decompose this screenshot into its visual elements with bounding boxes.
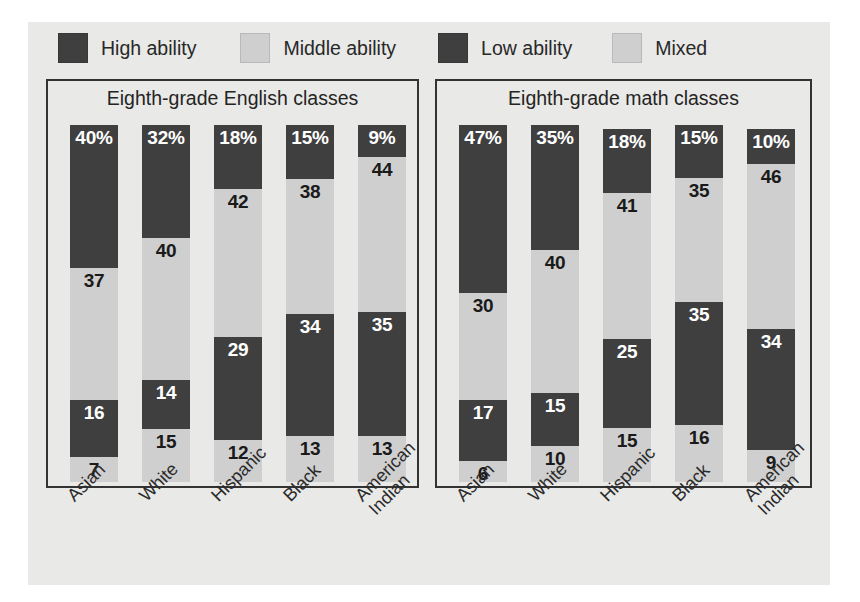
bar-segment: 14 (142, 380, 190, 429)
bar-group: 15%383413 (286, 125, 334, 482)
bar-segment-label: 15% (286, 128, 334, 147)
bar-segment: 35 (675, 302, 723, 426)
legend-item-low-ability: Low ability (438, 33, 572, 63)
bar-segment: 35% (531, 125, 579, 250)
bar-segment-label: 30 (459, 296, 507, 315)
legend-item-middle-ability: Middle ability (240, 33, 396, 63)
bar-segment: 16 (70, 400, 118, 457)
panel-math-classes: Eighth-grade math classes 47%3017635%401… (435, 79, 812, 488)
legend-label-low-ability: Low ability (481, 37, 572, 60)
bar-segment: 15 (531, 393, 579, 447)
legend-swatch-mixed-icon (612, 33, 642, 63)
bar-segment: 30 (459, 293, 507, 400)
legend-label-middle-ability: Middle ability (283, 37, 396, 60)
bar-segment-label: 35 (675, 181, 723, 200)
x-axis-labels: AsianWhiteHispanicBlackAmerican IndianAs… (28, 492, 830, 585)
bar-segment-label: 44 (358, 160, 406, 179)
legend-item-high-ability: High ability (58, 33, 196, 63)
bar-segment-label: 15% (675, 128, 723, 147)
bar-segment: 18% (603, 129, 651, 193)
bar-segment: 47% (459, 125, 507, 293)
panel-title-english: Eighth-grade English classes (48, 87, 417, 110)
bar-segment: 18% (214, 125, 262, 189)
bar-segment: 10% (747, 129, 795, 165)
bar-segment-label: 40 (531, 253, 579, 272)
bar-group: 18%412515 (603, 125, 651, 482)
legend-swatch-middle-icon (240, 33, 270, 63)
bar-segment: 40 (531, 250, 579, 393)
bar-segment: 35 (675, 178, 723, 302)
bar-segment-label: 47% (459, 128, 507, 147)
bar-segment: 40 (142, 238, 190, 379)
bar-segment-label: 40 (142, 241, 190, 260)
legend-swatch-high-icon (58, 33, 88, 63)
bar-segment-label: 25 (603, 342, 651, 361)
bar-segment: 9% (358, 125, 406, 157)
bar-segment-label: 16 (675, 428, 723, 447)
panel-english-classes: Eighth-grade English classes 40%3716732%… (46, 79, 419, 488)
bar-segment-label: 14 (142, 383, 190, 402)
bar-segment-label: 16 (70, 403, 118, 422)
bar-segment: 25 (603, 339, 651, 428)
bar-segment-label: 15 (531, 396, 579, 415)
bar-segment-label: 42 (214, 192, 262, 211)
bar-segment-label: 35 (675, 305, 723, 324)
plot-area-math: 47%3017635%40151018%41251515%35351610%46… (437, 125, 810, 482)
bar-segment: 17 (459, 400, 507, 461)
bar-segment-label: 35 (358, 315, 406, 334)
bar-group: 35%401510 (531, 125, 579, 482)
bar-group: 32%401415 (142, 125, 190, 482)
bar-segment-label: 34 (286, 317, 334, 336)
bar-segment-label: 18% (214, 128, 262, 147)
bar-segment-label: 41 (603, 196, 651, 215)
bar-segment: 35 (358, 312, 406, 436)
bar-segment-label: 38 (286, 182, 334, 201)
bar-segment: 15% (675, 125, 723, 178)
bar-segment-label: 37 (70, 271, 118, 290)
bar-segment: 37 (70, 268, 118, 400)
legend-swatch-low-icon (438, 33, 468, 63)
bar-segment-label: 34 (747, 332, 795, 351)
bar-segment: 38 (286, 179, 334, 315)
bar-segment-label: 32% (142, 128, 190, 147)
bar-segment-label: 46 (747, 167, 795, 186)
bar-segment-label: 18% (603, 132, 651, 151)
chart-legend: High ability Middle ability Low ability … (28, 22, 830, 74)
bar-segment-label: 9% (358, 128, 406, 147)
bar-segment: 29 (214, 337, 262, 440)
bar-group: 10%46349 (747, 125, 795, 482)
bar-segment: 44 (358, 157, 406, 313)
legend-label-mixed: Mixed (655, 37, 707, 60)
bar-group: 47%30176 (459, 125, 507, 482)
bar-segment: 40% (70, 125, 118, 268)
bar-segment-label: 13 (286, 439, 334, 458)
bar-segment: 15% (286, 125, 334, 179)
bar-segment: 32% (142, 125, 190, 238)
legend-item-mixed: Mixed (612, 33, 707, 63)
figure-canvas: High ability Middle ability Low ability … (28, 22, 830, 585)
bar-group: 40%37167 (70, 125, 118, 482)
plot-area-english: 40%3716732%40141518%42291215%3834139%443… (48, 125, 417, 482)
bar-segment-label: 17 (459, 403, 507, 422)
bar-segment-label: 35% (531, 128, 579, 147)
panel-title-math: Eighth-grade math classes (437, 87, 810, 110)
bar-segment: 34 (286, 314, 334, 435)
bar-group: 15%353516 (675, 125, 723, 482)
bar-segment-label: 10% (747, 132, 795, 151)
bar-segment-label: 15 (142, 432, 190, 451)
bar-segment: 46 (747, 164, 795, 328)
bar-segment: 42 (214, 189, 262, 337)
legend-label-high-ability: High ability (101, 37, 196, 60)
bar-segment: 34 (747, 329, 795, 450)
bar-group: 9%443513 (358, 125, 406, 482)
bar-group: 18%422912 (214, 125, 262, 482)
bar-segment-label: 29 (214, 340, 262, 359)
bar-segment-label: 40% (70, 128, 118, 147)
bar-segment: 41 (603, 193, 651, 339)
